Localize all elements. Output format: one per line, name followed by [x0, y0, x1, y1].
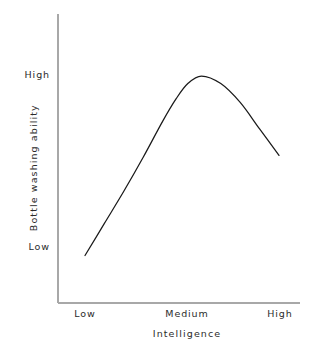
y-axis-title: Bottle washing ability [29, 88, 39, 248]
y-tick-label-low: Low [0, 242, 50, 252]
data-curve [85, 76, 279, 256]
x-axis-title: Intelligence [137, 329, 237, 339]
x-tick-label-low: Low [60, 309, 110, 319]
plot-area [0, 0, 316, 356]
x-tick-label-medium: Medium [157, 309, 217, 319]
x-tick-label-high: High [255, 309, 305, 319]
y-tick-label-high: High [0, 70, 50, 80]
chart-figure: High Low Bottle washing ability Low Medi… [0, 0, 316, 356]
